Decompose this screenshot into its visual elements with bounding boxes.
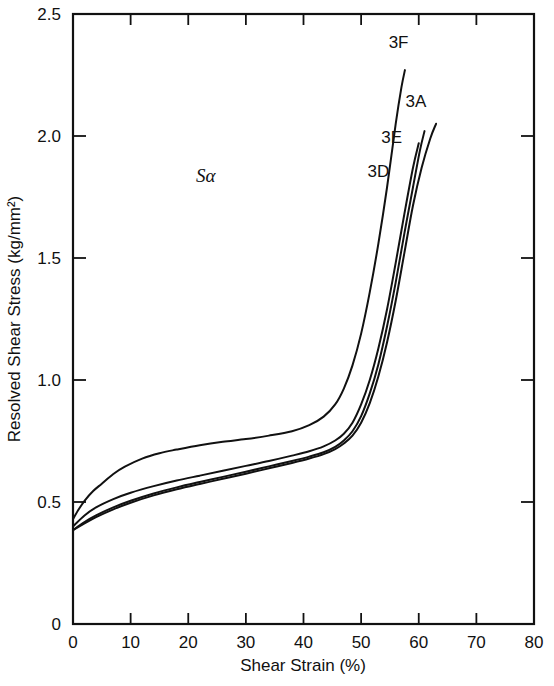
x-axis-tick-labels: 01020304050607080: [68, 633, 543, 652]
stress-strain-plot: 01020304050607080 00.51.01.52.02.5 3F3D3…: [0, 0, 554, 686]
y-tick-label: 0: [52, 615, 61, 634]
x-tick-label: 0: [68, 633, 77, 652]
x-axis-title: Shear Strain (%): [240, 656, 366, 675]
y-axis-tick-labels: 00.51.01.52.02.5: [37, 5, 61, 634]
series-label-3e: 3E: [381, 128, 402, 147]
phase-annotation: Sα: [196, 165, 217, 186]
series-label-3a: 3A: [405, 92, 426, 111]
x-tick-label: 60: [409, 633, 428, 652]
x-tick-label: 50: [352, 633, 371, 652]
x-tick-label: 40: [294, 633, 313, 652]
series-label-3f: 3F: [389, 33, 409, 52]
x-tick-label: 20: [179, 633, 198, 652]
y-axis-ticks: [73, 136, 534, 502]
x-tick-label: 10: [121, 633, 140, 652]
y-tick-label: 0.5: [37, 493, 61, 512]
x-tick-label: 80: [525, 633, 544, 652]
plot-frame: [73, 14, 534, 624]
x-tick-label: 30: [236, 633, 255, 652]
curve-3e: [73, 131, 425, 530]
y-tick-label: 2.0: [37, 127, 61, 146]
y-tick-label: 2.5: [37, 5, 61, 24]
y-axis-title: Resolved Shear Stress (kg/mm²): [5, 196, 24, 443]
y-tick-label: 1.0: [37, 371, 61, 390]
x-tick-label: 70: [467, 633, 486, 652]
y-tick-label: 1.5: [37, 249, 61, 268]
curve-3d: [73, 143, 419, 526]
series-label-3d: 3D: [368, 162, 390, 181]
chart-figure: 01020304050607080 00.51.01.52.02.5 3F3D3…: [0, 0, 554, 686]
curve-3f: [73, 70, 405, 519]
